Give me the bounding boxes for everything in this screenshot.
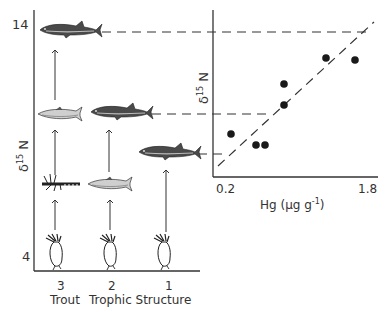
right-x-tick-0.2: 0.2 xyxy=(216,183,235,195)
data-point xyxy=(280,80,288,88)
left-y-axis-label: δ15 N xyxy=(16,140,31,172)
x-tick-2: 2 xyxy=(108,280,116,292)
right-y-axis-label: δ15 N xyxy=(196,72,211,104)
data-point xyxy=(280,101,288,109)
lake-trout-icon xyxy=(40,21,102,38)
x-tick-3: 3 xyxy=(57,280,65,292)
chain-column-2 xyxy=(88,103,153,270)
right-x-axis-label: Hg (µg g-1) xyxy=(260,198,325,211)
zooplankton-icon xyxy=(100,234,116,270)
data-point xyxy=(252,141,260,149)
data-point xyxy=(227,130,235,138)
x-tick-1: 1 xyxy=(165,280,173,292)
data-point xyxy=(322,54,330,62)
left-y-tick-4: 4 xyxy=(22,250,30,263)
figure-canvas xyxy=(0,0,386,312)
x-label-trout: Trout xyxy=(50,294,80,306)
chain-column-1 xyxy=(139,143,201,270)
regression-line xyxy=(218,22,374,166)
small-fish-icon xyxy=(88,177,132,191)
x-label-trophic-structure: Trophic Structure xyxy=(89,294,191,306)
left-y-tick-14: 14 xyxy=(12,18,29,31)
lake-trout-icon xyxy=(91,103,153,120)
data-point xyxy=(261,141,269,149)
zooplankton-icon xyxy=(46,234,62,270)
zooplankton-icon xyxy=(154,234,170,270)
small-fish-icon xyxy=(38,107,82,121)
scatter-points xyxy=(227,54,359,149)
data-point xyxy=(351,56,359,64)
mysis-shrimp-icon xyxy=(42,174,80,191)
lake-trout-icon xyxy=(139,143,201,160)
right-x-tick-1.8: 1.8 xyxy=(358,183,377,195)
chain-column-3 xyxy=(38,21,102,270)
